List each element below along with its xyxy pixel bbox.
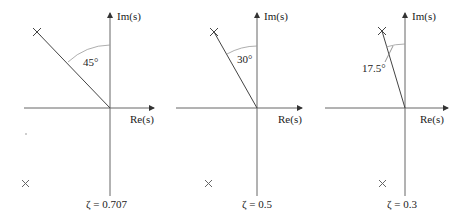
panel-zeta-03 xyxy=(325,13,448,196)
re-axis-label: Re(s) xyxy=(420,114,444,125)
pole-lower-icon xyxy=(379,180,386,187)
angle-label: 45° xyxy=(83,57,98,68)
angle-leader xyxy=(385,46,393,62)
dot-mark xyxy=(25,133,26,134)
zeta-label: ζ = 0.707 xyxy=(86,199,127,210)
zeta-label: ζ = 0.5 xyxy=(242,199,272,210)
panel-zeta-05 xyxy=(176,13,302,196)
pole-ray xyxy=(37,32,110,108)
pole-upper-icon xyxy=(210,28,218,36)
zeta-label: ζ = 0.3 xyxy=(387,199,417,210)
im-axis-label: Im(s) xyxy=(117,11,141,22)
pole-diagrams xyxy=(0,0,467,220)
pole-ray xyxy=(214,32,257,108)
pole-lower-icon xyxy=(205,180,212,187)
pole-upper-icon xyxy=(378,27,386,35)
re-axis-label: Re(s) xyxy=(278,114,302,125)
angle-arc xyxy=(386,44,405,47)
im-axis-label: Im(s) xyxy=(264,11,288,22)
angle-label: 30° xyxy=(237,54,252,65)
im-axis-label: Im(s) xyxy=(412,11,436,22)
angle-label: 17.5° xyxy=(362,63,386,74)
pole-upper-icon xyxy=(33,28,41,36)
re-axis-label: Re(s) xyxy=(130,114,154,125)
pole-lower-icon xyxy=(22,180,29,187)
panel-zeta-0707 xyxy=(22,13,154,196)
